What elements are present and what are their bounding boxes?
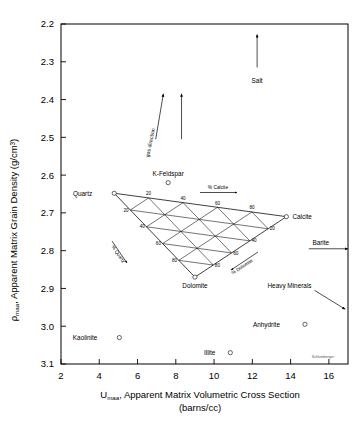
x-axis-units: (barns/cc) bbox=[179, 402, 221, 413]
mineral-identification-chart: 2.22.32.42.52.62.72.82.93.03.12468101214… bbox=[0, 0, 363, 429]
ternary-label-dolomite: 60 bbox=[233, 251, 239, 256]
ternary-label-calcite: 20 bbox=[146, 191, 152, 196]
mineral-label-barite: Barite bbox=[312, 239, 329, 246]
data-point-marker[interactable] bbox=[117, 335, 121, 339]
y-tick-label: 2.8 bbox=[41, 245, 54, 256]
ternary-label-calcite: 40 bbox=[181, 196, 187, 201]
ternary-gridline bbox=[179, 260, 213, 265]
data-point-marker[interactable] bbox=[303, 322, 307, 326]
heavy-minerals-arrow bbox=[315, 290, 346, 309]
ternary-label-quartz: 40 bbox=[140, 224, 146, 229]
y-tick-label: 3.0 bbox=[41, 321, 54, 332]
y-tick-label: 3.1 bbox=[41, 358, 54, 369]
gas-direction-arrow bbox=[156, 94, 164, 139]
data-point-marker[interactable] bbox=[284, 215, 288, 219]
mineral-label-dolomite: Dolomite bbox=[182, 282, 208, 289]
y-tick-label: 2.6 bbox=[41, 170, 54, 181]
x-tick-label: 2 bbox=[58, 370, 63, 381]
edge-quartz-dolomite bbox=[114, 193, 195, 277]
x-tick-label: 12 bbox=[247, 370, 258, 381]
ternary-gridline bbox=[163, 207, 218, 243]
mineral-label-kaolinite: Kaolinite bbox=[73, 334, 98, 341]
ternary-label-quartz: 20 bbox=[124, 208, 130, 213]
y-tick-label: 2.9 bbox=[41, 283, 54, 294]
plot-frame bbox=[61, 24, 348, 364]
y-tick-label: 2.7 bbox=[41, 207, 54, 218]
ternary-label-quartz: 60 bbox=[156, 241, 162, 246]
x-tick-label: 4 bbox=[97, 370, 102, 381]
ternary-label-calcite: 80 bbox=[249, 205, 255, 210]
ternary-gridline bbox=[252, 212, 268, 229]
data-point-marker[interactable] bbox=[228, 351, 232, 355]
ternary-gridline bbox=[163, 244, 232, 253]
mineral-label-anhydrite: Anhydrite bbox=[253, 321, 280, 329]
ternary-axis-caption-dolomite: % Dolomite bbox=[231, 258, 255, 276]
edge-quartz-calcite bbox=[114, 193, 286, 216]
mineral-label-salt: Salt bbox=[252, 77, 263, 84]
data-point-marker[interactable] bbox=[112, 191, 116, 195]
chart-root: 2.22.32.42.52.62.72.82.93.03.12468101214… bbox=[0, 0, 363, 429]
y-tick-label: 2.4 bbox=[41, 94, 54, 105]
x-tick-label: 8 bbox=[173, 370, 178, 381]
mineral-label-quartz: Quartz bbox=[73, 190, 92, 198]
mineral-label-k-feldspar: K-Feldspar bbox=[153, 170, 185, 178]
gas-direction-label: gas direction bbox=[144, 127, 156, 157]
y-axis-title: ρmaa, Apparent Matrix Grain Density (g/c… bbox=[8, 139, 20, 322]
data-point-marker[interactable] bbox=[166, 181, 170, 185]
ternary-label-quartz: 80 bbox=[172, 258, 178, 263]
ternary-axis-caption-quartz: % Quartz bbox=[110, 245, 126, 265]
mineral-label-illite: Illite bbox=[204, 349, 216, 356]
y-tick-label: 2.2 bbox=[41, 18, 54, 29]
mineral-label-calcite: Calcite bbox=[292, 213, 312, 220]
mineral-label-heavy-minerals: Heavy Minerals bbox=[267, 282, 311, 290]
ternary-gridline bbox=[146, 203, 183, 227]
ternary-gridline bbox=[130, 198, 148, 210]
data-point-marker[interactable] bbox=[193, 275, 197, 279]
schlumberger-watermark: Schlumberger bbox=[312, 355, 335, 359]
x-tick-label: 14 bbox=[285, 370, 296, 381]
y-tick-label: 2.5 bbox=[41, 132, 54, 143]
y-tick-label: 2.3 bbox=[41, 56, 54, 67]
ternary-axis-caption-calcite: % Calcite bbox=[208, 185, 229, 190]
ternary-label-dolomite: 40 bbox=[251, 238, 257, 243]
ternary-gridline bbox=[218, 207, 250, 241]
ternary-label-calcite: 60 bbox=[215, 201, 221, 206]
ternary-gridline bbox=[146, 227, 249, 241]
ternary-label-dolomite: 20 bbox=[270, 226, 276, 231]
ternary-gridline bbox=[183, 203, 231, 253]
x-tick-label: 16 bbox=[324, 370, 335, 381]
x-tick-label: 10 bbox=[209, 370, 220, 381]
x-tick-label: 6 bbox=[135, 370, 140, 381]
ternary-label-dolomite: 80 bbox=[215, 263, 221, 268]
x-axis-title: Umaa, Apparent Matrix Volumetric Cross S… bbox=[100, 389, 300, 401]
